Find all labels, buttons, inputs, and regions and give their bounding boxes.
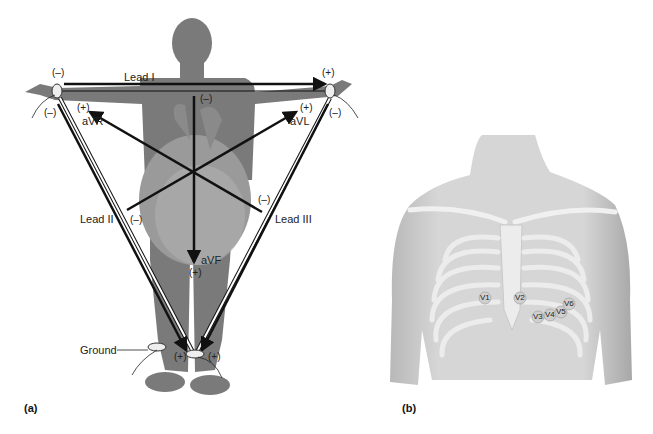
panel-b-chest-leads: V1 V2 V3 V4 V5 V6 (b) [370,0,653,434]
electrode-left-leg [186,350,204,358]
label-avr: aVR [82,116,103,127]
label-lead-iii: Lead III [275,214,312,225]
label-v5: V5 [556,308,566,316]
panel-a-limb-leads: Lead I Lead II Lead III aVR aVL aVF Grou… [0,0,370,434]
polarity-avl-plus: (+) [300,103,313,113]
label-avl: aVL [290,116,310,127]
polarity-lead-iii-minus: (–) [258,195,270,205]
label-lead-i: Lead I [124,72,155,83]
label-lead-ii: Lead II [80,214,114,225]
label-ground: Ground [80,345,117,356]
polarity-left-leg-left: (+) [174,352,187,362]
polarity-left-arm-top: (+) [322,68,335,78]
label-v6: V6 [564,300,574,308]
electrode-ground [148,343,166,351]
polarity-left-leg-right: (+) [208,352,221,362]
polarity-lead-ii-minus: (–) [130,215,142,225]
polarity-avr-plus: (+) [77,103,90,113]
limb-lead-diagram-svg [0,0,370,434]
polarity-right-arm-top: (–) [52,68,64,78]
panel-label-b: (b) [402,402,416,414]
label-v1: V1 [480,294,490,302]
polarity-right-arm-bottom: (–) [44,108,56,118]
label-v4: V4 [545,311,555,319]
chest-diagram-svg [370,0,653,434]
label-v2: V2 [515,294,525,302]
electrode-left-arm [325,84,335,98]
polarity-left-arm-bottom: (–) [329,108,341,118]
panel-label-a: (a) [24,402,37,414]
label-avf: aVF [201,255,221,266]
polarity-avf-plus: (+) [189,268,202,278]
polarity-avf-minus: (–) [200,94,212,104]
label-v3: V3 [533,313,543,321]
